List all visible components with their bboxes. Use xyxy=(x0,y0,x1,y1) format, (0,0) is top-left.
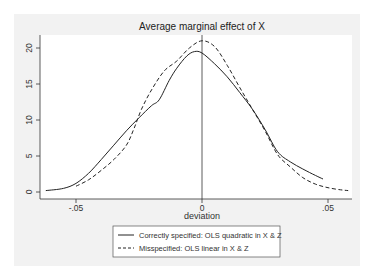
y-tick-label: 0 xyxy=(24,189,34,194)
y-tick-label: 10 xyxy=(24,115,34,125)
x-tick-label: .05 xyxy=(322,203,334,213)
y-tick-label: 20 xyxy=(24,43,34,53)
y-tick-label: 5 xyxy=(24,153,34,158)
x-tick-label: -.05 xyxy=(69,203,84,213)
chart: Average marginal effect of X 05101520 -.… xyxy=(0,0,374,278)
chart-title: Average marginal effect of X xyxy=(139,21,265,32)
y-tick-label: 15 xyxy=(24,79,34,89)
legend-item-misspecified: Misspecified: OLS linear in X & Z xyxy=(139,244,249,253)
legend: Correctly specified: OLS quadratic in X … xyxy=(113,226,282,257)
legend-item-correctly-specified: Correctly specified: OLS quadratic in X … xyxy=(139,231,282,240)
x-axis-label: deviation xyxy=(184,211,220,221)
